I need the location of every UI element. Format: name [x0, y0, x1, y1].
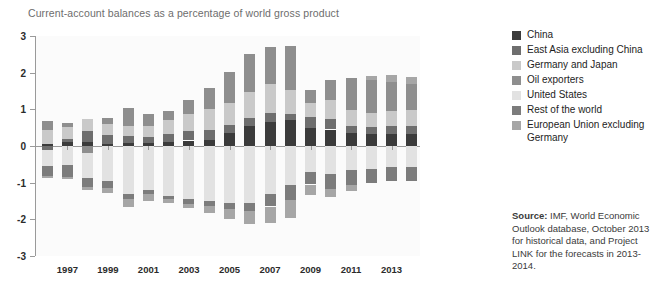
legend-label: China [527, 29, 553, 42]
bar-segment [346, 126, 357, 133]
bar-segment [102, 188, 113, 192]
x-tick-label: 2005 [219, 264, 240, 275]
chart-title: Current-account balances as a percentage… [28, 7, 339, 19]
bar-2000 [123, 36, 134, 256]
bar-segment [386, 82, 397, 111]
x-tick-label: 2013 [381, 264, 402, 275]
bar-segment [366, 127, 377, 134]
bar-segment [244, 54, 255, 93]
bar-segment [305, 172, 316, 185]
bar-segment [366, 113, 377, 126]
bar-segment [224, 203, 235, 210]
bar-segment [62, 123, 73, 127]
bar-segment [325, 119, 336, 129]
bar-segment [82, 131, 93, 141]
bar-segment [82, 153, 93, 179]
bar-segment [325, 80, 336, 100]
legend-swatch-icon [512, 121, 521, 130]
bar-segment [285, 46, 296, 90]
legend-item: Germany and Japan [512, 59, 652, 72]
y-tick-label: -2 [17, 214, 26, 225]
bar-segment [123, 126, 134, 136]
bar-segment [163, 111, 174, 120]
bar-segment [285, 120, 296, 146]
plot-area: 3210-1-2-3 19971999200120032005200720092… [35, 36, 420, 256]
legend-swatch-icon [512, 76, 521, 85]
bar-segment [183, 131, 194, 140]
bar-segment [366, 169, 377, 184]
bar-segment [305, 90, 316, 103]
bar-segment [163, 199, 174, 203]
y-tick [30, 183, 35, 184]
bar-segment [204, 109, 215, 130]
chart-legend: ChinaEast Asia excluding ChinaGermany an… [512, 29, 652, 147]
legend-swatch-icon [512, 106, 521, 115]
y-tick [30, 256, 35, 257]
y-tick-label: 2 [20, 67, 26, 78]
y-tick [30, 109, 35, 110]
bar-segment [244, 211, 255, 224]
bar-segment [265, 194, 276, 207]
bar-2014 [406, 36, 417, 256]
source-note: Source: IMF, World Economic Outlook data… [512, 210, 654, 273]
bar-segment [224, 146, 235, 203]
x-tick-label: 2003 [178, 264, 199, 275]
x-tick [108, 146, 109, 150]
bar-segment [204, 206, 215, 213]
bar-segment [366, 80, 377, 114]
bar-segment [386, 134, 397, 146]
bar-segment [406, 134, 417, 146]
bar-2004 [204, 36, 215, 256]
bar-segment [325, 189, 336, 197]
bar-segment [244, 126, 255, 146]
bar-segment [325, 174, 336, 189]
bar-segment [82, 146, 93, 153]
bar-segment [62, 165, 73, 177]
bar-segment [386, 167, 397, 181]
bar-segment [163, 134, 174, 142]
bar-segment [265, 146, 276, 194]
legend-label: Rest of the world [527, 104, 602, 117]
bar-segment [406, 77, 417, 84]
bar-segment [163, 120, 174, 134]
bar-segment [102, 118, 113, 124]
bar-segment [386, 111, 397, 126]
bar-segment [346, 110, 357, 125]
bar-segment [123, 108, 134, 126]
bar-segment [244, 92, 255, 118]
bar-2012 [366, 36, 377, 256]
bar-segment [82, 119, 93, 131]
bar-segment [62, 177, 73, 179]
bar-segment [163, 146, 174, 196]
bar-segment [123, 146, 134, 194]
bar-segment [42, 150, 53, 167]
bar-segment [244, 146, 255, 203]
bar-segment [406, 110, 417, 125]
x-tick-label: 2007 [259, 264, 280, 275]
legend-item: Rest of the world [512, 104, 652, 117]
bar-segment [102, 135, 113, 144]
source-prefix: Source: [512, 210, 547, 221]
x-tick-label: 1999 [97, 264, 118, 275]
bar-segment [285, 185, 296, 200]
bar-segment [366, 134, 377, 146]
bar-segment [102, 181, 113, 188]
bar-segment [123, 199, 134, 207]
bar-segment [224, 103, 235, 125]
bar-segment [42, 176, 53, 178]
y-tick-label: 3 [20, 31, 26, 42]
bar-segment [62, 127, 73, 139]
bar-segment [386, 75, 397, 82]
y-tick-label: -1 [17, 177, 26, 188]
bar-segment [406, 126, 417, 134]
bar-segment [265, 113, 276, 122]
bar-segment [305, 103, 316, 118]
legend-swatch-icon [512, 46, 521, 55]
bar-segment [82, 187, 93, 190]
bar-1998 [82, 36, 93, 256]
x-tick [311, 146, 312, 150]
bar-segment [143, 137, 154, 143]
y-tick-label: 0 [20, 141, 26, 152]
bar-segment [183, 146, 194, 199]
bar-segment [224, 125, 235, 133]
